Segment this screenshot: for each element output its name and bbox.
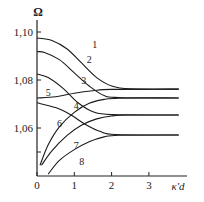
x-tick-label: 2 — [109, 179, 115, 191]
y-axis-title: Ω — [33, 5, 43, 19]
curve-1 — [37, 38, 179, 89]
curve-label-3: 3 — [81, 75, 86, 86]
x-tick-label: 0 — [34, 179, 40, 191]
y-tick-label: 1,06 — [14, 122, 34, 134]
y-tick-label: 1,08 — [14, 74, 34, 86]
curve-label-5: 5 — [46, 87, 51, 98]
x-tick-label: 1 — [72, 179, 78, 191]
curve-label-8: 8 — [79, 156, 84, 167]
chart: 01231,101,081,06 12354678 Ω κ′d — [0, 0, 204, 202]
curve-6 — [40, 98, 179, 165]
curve-label-1: 1 — [92, 39, 97, 50]
x-axis-title: κ′d — [171, 180, 185, 192]
curve-label-4: 4 — [74, 100, 79, 111]
curve-label-7: 7 — [74, 140, 79, 151]
curve-label-6: 6 — [57, 118, 62, 129]
curve-label-2: 2 — [87, 54, 92, 65]
curves — [37, 38, 179, 174]
curve-2 — [37, 52, 179, 98]
x-tick-label: 3 — [146, 179, 152, 191]
curve-8 — [48, 135, 179, 174]
y-tick-label: 1,10 — [14, 26, 34, 38]
